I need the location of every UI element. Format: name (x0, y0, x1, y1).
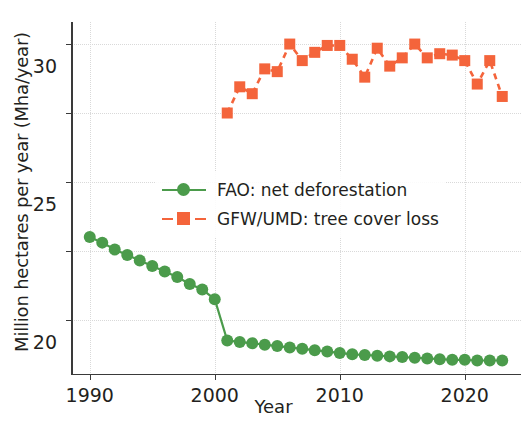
data-point (384, 350, 396, 362)
data-point (309, 344, 321, 356)
y-tick-label: 25 (33, 193, 57, 215)
data-point (396, 351, 408, 363)
data-point (234, 81, 245, 92)
data-point (434, 353, 446, 365)
data-point (484, 355, 496, 367)
data-point (497, 91, 508, 102)
data-point (359, 72, 370, 83)
data-point (196, 284, 208, 296)
data-point (134, 255, 146, 267)
data-point (259, 339, 271, 351)
data-point (409, 39, 420, 50)
data-point (247, 88, 258, 99)
data-point (347, 54, 358, 65)
y-tick-label: 20 (33, 331, 57, 353)
legend-marker-square-icon (162, 209, 206, 229)
data-point (334, 347, 346, 359)
data-point (434, 48, 445, 59)
data-point (371, 350, 383, 362)
data-point (284, 39, 295, 50)
data-point (222, 108, 233, 119)
data-point (446, 354, 458, 366)
data-point (421, 352, 433, 364)
data-point (259, 63, 270, 74)
data-point (359, 349, 371, 361)
data-point (471, 355, 483, 367)
data-point (309, 47, 320, 58)
data-point (334, 40, 345, 51)
data-point (271, 340, 283, 352)
data-point (296, 343, 308, 355)
data-point (272, 66, 283, 77)
data-point (459, 55, 470, 66)
legend-item-fao[interactable]: FAO: net deforestation (162, 175, 439, 204)
data-point (146, 260, 158, 272)
data-point (496, 355, 508, 367)
data-point (397, 52, 408, 63)
chart-legend: FAO: net deforestation GFW/UMD: tree cov… (156, 171, 445, 237)
data-point (384, 61, 395, 72)
data-point (346, 348, 358, 360)
data-point (409, 352, 421, 364)
data-point (209, 293, 221, 305)
x-axis-title: Year (92, 396, 455, 417)
data-point (322, 40, 333, 51)
data-point (96, 237, 108, 249)
series-line-fao (90, 237, 503, 360)
data-point (372, 43, 383, 54)
data-point (472, 79, 483, 90)
plot-area: 1015202530 1990200020102020 FAO: net def… (71, 22, 521, 375)
data-point (459, 354, 471, 366)
legend-label-fao: FAO: net deforestation (217, 180, 407, 200)
data-point (321, 346, 333, 358)
data-point (184, 278, 196, 290)
data-point (234, 336, 246, 348)
legend-label-gfw: GFW/UMD: tree cover loss (217, 209, 439, 229)
legend-item-gfw[interactable]: GFW/UMD: tree cover loss (162, 204, 439, 233)
data-point (284, 341, 296, 353)
data-point (447, 50, 458, 61)
y-tick-label: 30 (33, 55, 57, 77)
data-point (297, 55, 308, 66)
data-point (121, 249, 133, 261)
legend-marker-circle-icon (162, 180, 206, 200)
data-point (171, 271, 183, 283)
data-point (246, 337, 258, 349)
data-point (109, 244, 121, 256)
data-point (159, 266, 171, 278)
data-point (221, 335, 233, 347)
data-point (484, 55, 495, 66)
deforestation-chart-figure: Million hectares per year (Mha/year) 101… (0, 0, 525, 428)
data-point (422, 52, 433, 63)
data-point (84, 231, 96, 243)
